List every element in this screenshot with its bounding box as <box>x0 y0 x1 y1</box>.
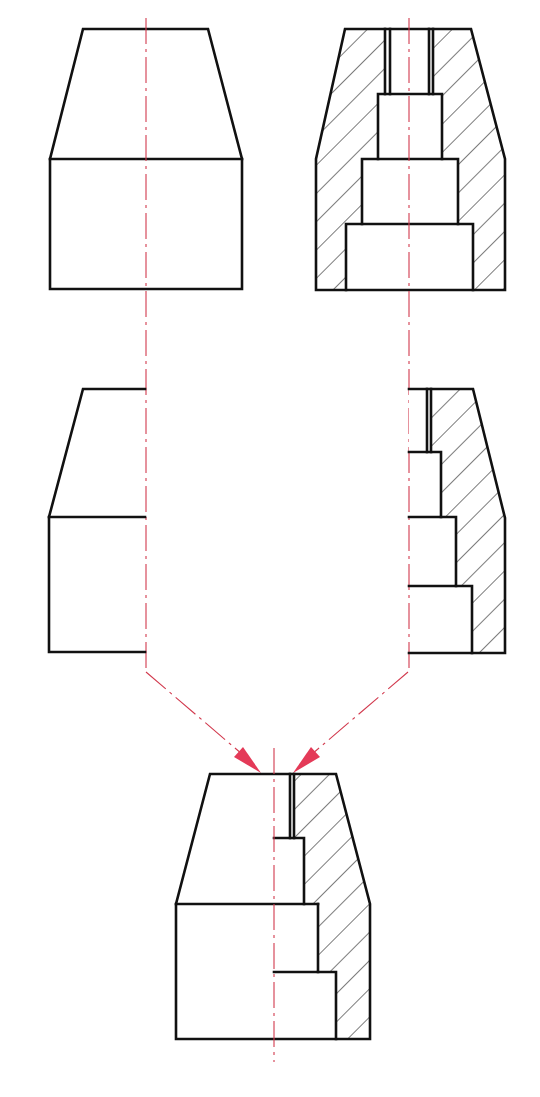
half-section-result <box>176 748 400 1062</box>
left-half-view <box>49 389 145 652</box>
full-view <box>50 18 242 672</box>
right-half-section <box>409 380 540 660</box>
projection-arrows <box>146 672 408 773</box>
diagram-canvas <box>0 0 540 1097</box>
full-section <box>316 0 540 672</box>
